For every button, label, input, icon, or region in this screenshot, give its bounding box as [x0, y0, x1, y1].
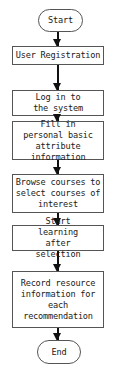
record-label: Record resource information for each rec…	[19, 278, 97, 322]
browse-label: Browse courses to select courses of inte…	[15, 177, 101, 210]
start-node: Start	[38, 9, 83, 32]
end-node: End	[37, 340, 81, 364]
arrow-down-icon	[57, 251, 59, 271]
record-node: Record resource information for each rec…	[12, 271, 104, 328]
start-learning-node: Start learning after selection	[12, 225, 104, 251]
arrow-down-icon	[57, 160, 59, 174]
fill-in-node: Fill in personal basic attribute informa…	[12, 121, 104, 160]
end-label: End	[52, 347, 67, 358]
fill-in-label: Fill in personal basic attribute informa…	[19, 119, 97, 163]
log-in-label: Log in to the system	[27, 92, 89, 114]
user-registration-label: User Registration	[16, 50, 101, 61]
log-in-node: Log in to the system	[12, 90, 104, 116]
browse-node: Browse courses to select courses of inte…	[12, 174, 104, 213]
user-registration-node: User Registration	[12, 46, 104, 65]
start-label: Start	[48, 15, 73, 26]
arrow-down-icon	[57, 32, 59, 46]
arrow-down-icon	[57, 65, 59, 90]
arrow-down-icon	[57, 328, 59, 340]
